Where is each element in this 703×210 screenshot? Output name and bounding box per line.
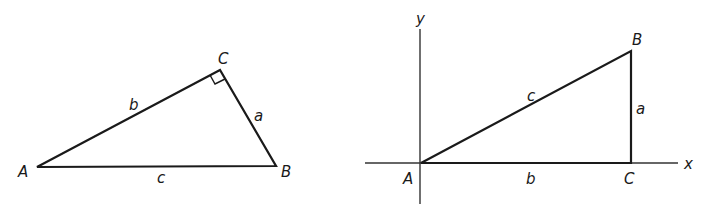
left-side-a-label: a <box>254 107 263 125</box>
right-vertex-a-label: A <box>402 170 413 188</box>
right-side-c-label: c <box>527 87 536 105</box>
left-vertex-a-label: A <box>17 163 28 181</box>
left-side-c-label: c <box>157 169 166 187</box>
left-triangle <box>37 70 276 167</box>
right-vertex-c-label: C <box>624 170 635 188</box>
left-vertex-c-label: C <box>218 50 229 68</box>
x-axis-label: x <box>683 155 693 173</box>
right-side-b-label: b <box>526 170 536 188</box>
left-triangle-figure: A B C a b c <box>17 50 291 187</box>
right-coordinate-figure: y x A B C a b c <box>365 10 693 204</box>
right-vertex-b-label: B <box>632 31 642 49</box>
left-side-b-label: b <box>129 96 139 114</box>
left-vertex-b-label: B <box>281 163 291 181</box>
diagram-canvas: A B C a b c y x A B C a b c <box>0 0 703 210</box>
y-axis-label: y <box>415 10 426 28</box>
right-triangle <box>421 51 631 163</box>
right-side-a-label: a <box>636 100 645 118</box>
